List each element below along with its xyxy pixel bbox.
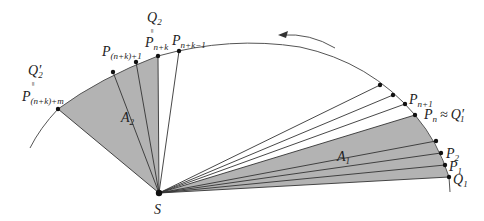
label-q2p-equals: = <box>28 81 37 86</box>
sector-a1 <box>159 115 449 193</box>
label-p-nk-plus-m: P(n+k)+m <box>21 89 64 106</box>
label-pn: Pn≈Q′1 <box>423 107 465 124</box>
label-p2: P2 <box>445 146 460 163</box>
label-q2-equals: = <box>147 28 156 33</box>
focus-label: S <box>154 202 161 217</box>
kepler-area-diagram: S A1 A2 Q1 P1 P2 Pn≈Q′1 Pn+1 Pn+k−1 Q2 =… <box>0 0 484 221</box>
label-pn-plus-k-minus-1: Pn+k−1 <box>171 33 206 50</box>
label-q2: Q2 <box>147 10 162 27</box>
sector-a2 <box>58 56 159 193</box>
focus-point <box>156 190 162 196</box>
label-pn-plus-1: Pn+1 <box>408 92 433 109</box>
label-pn-plus-k: Pn+k <box>144 35 169 52</box>
arrowhead-icon <box>278 31 288 38</box>
label-p-nk-plus-1: P(n+k)+1 <box>101 44 142 61</box>
label-q2-prime: Q′2 <box>28 63 43 80</box>
